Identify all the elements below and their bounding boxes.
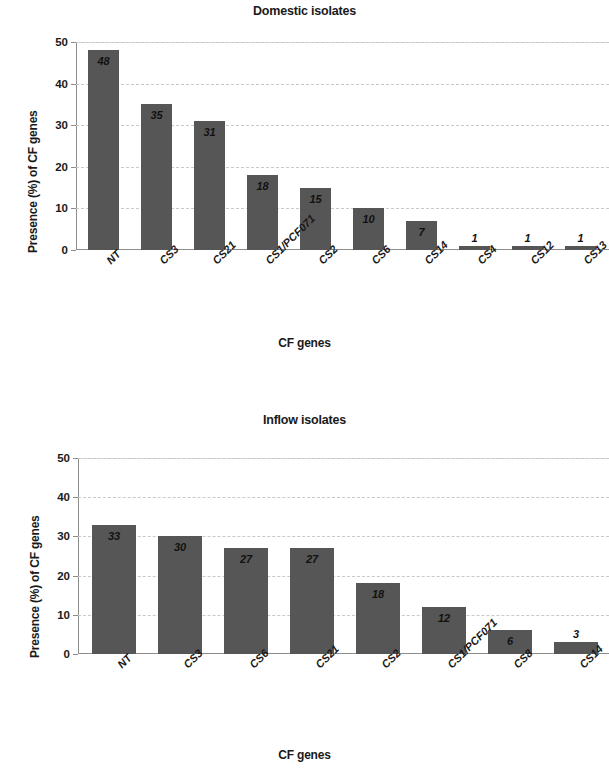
y-axis-tick-label: 40: [30, 491, 70, 503]
bar-value-label: 10: [353, 213, 384, 225]
bar-value-label: 15: [300, 193, 331, 205]
y-axis-tick: [73, 536, 78, 537]
y-axis-tick: [73, 458, 78, 459]
y-axis-tick: [73, 576, 78, 577]
x-axis-category-label: NT: [104, 248, 123, 267]
y-axis-tick-label: 10: [30, 609, 70, 621]
bar-value-label: 27: [290, 553, 334, 565]
y-axis-tick: [73, 615, 78, 616]
y-axis-tick: [71, 250, 76, 251]
inflow-isolates-chart: Inflow isolates Presence (%) of CF genes…: [0, 400, 609, 773]
bar-value-label: 18: [356, 588, 400, 600]
gridline: [76, 42, 609, 43]
y-axis-tick-label: 30: [28, 119, 68, 131]
y-axis-tick-label: 0: [28, 244, 68, 256]
chart-title-domestic: Domestic isolates: [0, 4, 609, 18]
bar-value-label: 1: [512, 232, 543, 244]
gridline: [78, 458, 609, 459]
y-axis-tick-label: 40: [28, 78, 68, 90]
x-axis-title-domestic: CF genes: [0, 336, 609, 350]
y-axis-tick: [71, 42, 76, 43]
gridline: [78, 497, 609, 498]
y-axis-tick-label: 50: [28, 36, 68, 48]
bar: [92, 525, 136, 654]
plot-area-domestic: [76, 42, 609, 250]
bar-value-label: 12: [422, 612, 466, 624]
bar-value-label: 35: [141, 109, 172, 121]
bar-value-label: 18: [247, 180, 278, 192]
bar-value-label: 31: [194, 126, 225, 138]
bar-value-label: 30: [158, 541, 202, 553]
bar-value-label: 7: [406, 226, 437, 238]
bar: [88, 50, 119, 250]
chart-title-inflow: Inflow isolates: [0, 413, 609, 427]
y-axis-tick: [73, 654, 78, 655]
bar-value-label: 3: [554, 628, 598, 640]
y-axis-tick: [71, 208, 76, 209]
bar-value-label: 1: [459, 232, 490, 244]
y-axis-tick-label: 10: [28, 202, 68, 214]
y-axis-tick-label: 30: [30, 530, 70, 542]
y-axis-tick-label: 20: [30, 570, 70, 582]
gridline: [76, 84, 609, 85]
y-axis-tick-label: 0: [30, 648, 70, 660]
bar-value-label: 48: [88, 55, 119, 67]
bar-value-label: 27: [224, 553, 268, 565]
y-axis-title-domestic: Presence (%) of CF genes: [26, 110, 40, 253]
bar: [141, 104, 172, 250]
bar-value-label: 1: [565, 232, 596, 244]
y-axis-tick-label: 50: [30, 452, 70, 464]
domestic-isolates-chart: Domestic isolates Presence (%) of CF gen…: [0, 0, 609, 390]
bar-value-label: 33: [92, 530, 136, 542]
y-axis-tick: [71, 167, 76, 168]
plot-area-inflow: [78, 458, 609, 654]
x-axis-title-inflow: CF genes: [0, 748, 609, 762]
bar: [194, 121, 225, 250]
y-axis-tick-label: 20: [28, 161, 68, 173]
y-axis-tick: [71, 125, 76, 126]
bar: [158, 536, 202, 654]
y-axis-tick: [71, 84, 76, 85]
y-axis-tick: [73, 497, 78, 498]
x-axis-category-label: NT: [115, 652, 134, 671]
